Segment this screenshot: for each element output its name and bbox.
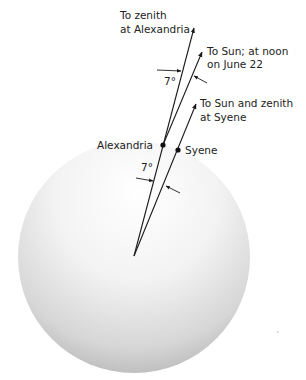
angle-marker-top-right-icon bbox=[194, 76, 207, 83]
label-sun-noon-2: on June 22 bbox=[207, 58, 263, 70]
alexandria-dot-icon bbox=[160, 142, 165, 147]
speck-dot bbox=[277, 331, 279, 333]
diagram-canvas: To zenith at Alexandria To Sun; at noon … bbox=[0, 0, 306, 380]
syene-dot-icon bbox=[175, 147, 180, 152]
eratosthenes-diagram: To zenith at Alexandria To Sun; at noon … bbox=[0, 0, 306, 380]
label-angle-top: 7° bbox=[164, 75, 176, 87]
label-angle-center: 7° bbox=[141, 161, 153, 173]
label-sun-noon-1: To Sun; at noon bbox=[206, 45, 288, 57]
label-zenith-alexandria-2: at Alexandria bbox=[120, 23, 190, 35]
label-sun-syene-2: at Syene bbox=[200, 111, 246, 123]
label-alexandria: Alexandria bbox=[97, 139, 153, 151]
angle-marker-top-left-icon bbox=[157, 70, 181, 71]
label-syene: Syene bbox=[185, 144, 217, 156]
label-zenith-alexandria-1: To zenith bbox=[119, 9, 167, 21]
label-sun-syene-1: To Sun and zenith bbox=[199, 97, 293, 109]
earth-sphere bbox=[18, 141, 250, 373]
sun-ray-alexandria bbox=[163, 52, 202, 145]
